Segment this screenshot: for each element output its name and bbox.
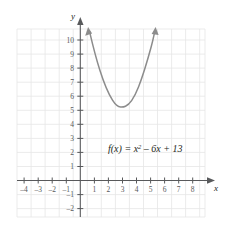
x-tick-label: –3 <box>33 185 42 194</box>
x-tick-label: 7 <box>177 185 181 194</box>
x-axis-label: x <box>213 183 218 193</box>
x-tick-label: 3 <box>121 185 125 194</box>
equation-annotation: f(x) = x2 – 6x + 13 <box>108 143 183 156</box>
equation-suffix: – 6x + 13 <box>141 143 182 154</box>
y-tick-label: 8 <box>70 64 74 73</box>
x-tick-label: 5 <box>149 185 153 194</box>
y-tick-label: 5 <box>70 106 74 115</box>
y-tick-label: 1 <box>70 162 74 171</box>
y-tick-label: 4 <box>70 120 74 129</box>
y-tick-label: 9 <box>70 50 74 59</box>
y-tick-label: –2 <box>66 204 75 213</box>
graph-figure: –4 –3 –2 –1 1 2 3 4 5 6 7 8 –2 –1 1 2 3 … <box>0 0 225 232</box>
coordinate-plane-chart: –4 –3 –2 –1 1 2 3 4 5 6 7 8 –2 –1 1 2 3 … <box>0 0 225 232</box>
y-tick-label: 7 <box>70 78 74 87</box>
y-tick-label: 3 <box>70 134 74 143</box>
x-tick-label: 1 <box>93 185 97 194</box>
x-tick-label: 8 <box>191 185 195 194</box>
y-tick-label: 6 <box>70 92 74 101</box>
x-tick-label: –2 <box>47 185 56 194</box>
y-tick-label: 10 <box>67 36 75 45</box>
x-tick-label: –4 <box>19 185 28 194</box>
x-tick-label: 6 <box>163 185 167 194</box>
y-axis-arrow <box>77 17 83 25</box>
y-axis-label: y <box>70 11 75 21</box>
y-tick-label: 2 <box>70 148 74 157</box>
equation-prefix: f(x) = x <box>108 143 139 155</box>
x-tick-label: 2 <box>107 185 111 194</box>
x-tick-label: 4 <box>135 185 139 194</box>
y-tick-label: –1 <box>66 190 75 199</box>
